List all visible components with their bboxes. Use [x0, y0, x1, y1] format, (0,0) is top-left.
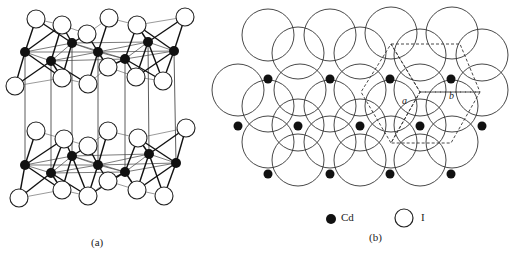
cadmium-atom [264, 75, 273, 84]
iodine-sphere [334, 134, 386, 186]
iodine-atom [55, 130, 73, 148]
cadmium-atom [20, 47, 30, 57]
interlayer-line [148, 42, 149, 154]
iodine-sphere [365, 7, 417, 59]
cadmium-atom [386, 75, 395, 84]
unit-cell-label-b: b [449, 90, 454, 101]
iodine-sphere [394, 134, 446, 186]
cdi2-structure-figure [0, 0, 517, 262]
cadmium-atom [46, 168, 56, 178]
iodine-atom [154, 72, 172, 90]
cadmium-atom [144, 149, 154, 159]
cadmium-atom [93, 47, 103, 57]
iodine-atom [27, 122, 45, 140]
iodine-atom [27, 10, 45, 28]
cadmium-atom [447, 75, 456, 84]
iodine-atom [129, 129, 147, 147]
iodine-sphere [242, 116, 294, 168]
iodine-atom [99, 172, 117, 190]
iodine-sphere [365, 80, 417, 132]
interlayer-line [174, 51, 176, 163]
bonds [15, 17, 186, 198]
iodine-sphere [272, 27, 324, 79]
iodine-atom [53, 69, 71, 87]
legend-label-cd: Cd [341, 211, 354, 223]
cadmium-atom [20, 160, 30, 170]
cadmium-atom [356, 122, 365, 131]
cadmium-atom [143, 37, 153, 47]
iodine-atom [53, 181, 71, 199]
iodine-atom [177, 119, 195, 137]
iodine-atom [99, 122, 117, 140]
caption-b: (b) [369, 231, 382, 243]
iodine-atom [100, 9, 118, 27]
iodine-sphere [426, 80, 478, 132]
cadmium-atom [120, 54, 130, 64]
cadmium-atom [416, 122, 425, 131]
cadmium-atom [478, 122, 487, 131]
iodine-atom [176, 8, 194, 26]
cd-legend-icon [326, 214, 336, 224]
cadmium-atom [294, 122, 303, 131]
iodine-atom [128, 181, 146, 199]
iodine-sphere [334, 64, 386, 116]
panel-a-side-view [6, 8, 195, 207]
iodine-sphere [212, 64, 264, 116]
iodine-sphere [304, 9, 356, 61]
iodine-atom [99, 58, 117, 76]
iodine-sphere [365, 116, 417, 168]
iodine-sphere [304, 116, 356, 168]
iodine-sphere [456, 29, 508, 81]
iodine-atom [79, 187, 97, 205]
iodine-sphere [242, 9, 294, 61]
iodine-atom [79, 75, 97, 93]
iodine-sphere [304, 80, 356, 132]
iodine-atom [53, 16, 71, 34]
cadmium-atom [264, 170, 273, 179]
iodine-sphere [242, 80, 294, 132]
iodine-atom [128, 16, 146, 34]
cadmium-atom [67, 38, 77, 48]
iodine-sphere [456, 64, 508, 116]
atoms [6, 8, 195, 207]
iodine-atom [78, 25, 96, 43]
cadmium-atom [386, 170, 395, 179]
iodine-atom [127, 68, 145, 86]
cadmium-atom [93, 160, 103, 170]
legend-label-i: I [421, 211, 425, 223]
iodine-atom [155, 187, 173, 205]
iodine-atom [79, 137, 97, 155]
caption-a: (a) [91, 236, 103, 248]
iodine-sphere [272, 134, 324, 186]
cadmium-atom [169, 46, 179, 56]
cadmium-atom [120, 167, 130, 177]
iodine-atom [10, 189, 28, 207]
panel-b-top-view [212, 7, 508, 186]
legend [326, 209, 413, 227]
i-legend-icon [395, 209, 413, 227]
cadmium-atom [234, 122, 243, 131]
cadmium-atom [46, 56, 56, 66]
cadmium-atom [67, 151, 77, 161]
unit-cell-label-a: a [402, 95, 407, 106]
cadmium-atom [326, 170, 335, 179]
cadmium-atom [326, 75, 335, 84]
iodine-sphere [394, 64, 446, 116]
cadmium-atom [447, 170, 456, 179]
iodine-atom [6, 77, 24, 95]
cadmium-atom [171, 158, 181, 168]
